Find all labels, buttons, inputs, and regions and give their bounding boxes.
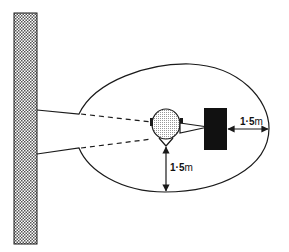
person-head-icon (150, 109, 183, 146)
vertical-dimension-label: 1·5m (170, 162, 193, 173)
sight-line-lower (81, 139, 152, 148)
sight-line-upper (81, 114, 152, 122)
arm-reach (180, 123, 208, 133)
machine-block (204, 108, 227, 150)
horizontal-dimension-label: 1·5m (240, 116, 263, 127)
hatched-wall (14, 13, 37, 244)
safety-zone-diagram: 1·5m 1·5m (0, 0, 289, 252)
